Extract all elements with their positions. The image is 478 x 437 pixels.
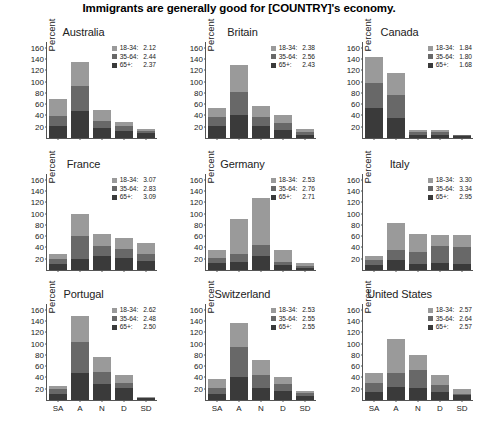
stacked-bar bbox=[387, 73, 405, 138]
bar-slot bbox=[250, 42, 272, 138]
legend-value: 3.34 bbox=[459, 185, 472, 194]
legend-value: 2.64 bbox=[459, 315, 472, 324]
legend-item: 35-64:2.56 bbox=[271, 53, 315, 62]
x-tick-mark bbox=[440, 400, 441, 402]
bar-segment bbox=[431, 246, 449, 264]
y-tick-label: 140 bbox=[190, 54, 203, 63]
legend-item: 65+:2.43 bbox=[271, 61, 315, 70]
y-tick-label: 160 bbox=[347, 175, 360, 184]
x-tick-label: SA bbox=[369, 404, 380, 413]
y-tick-label: 40 bbox=[351, 111, 360, 120]
x-tick-mark bbox=[217, 138, 218, 140]
x-tick-mark bbox=[374, 138, 375, 140]
figure-panel-grid: Immigrants are generally good for [COUNT… bbox=[0, 0, 478, 437]
x-tick-label: N bbox=[99, 404, 105, 413]
bar-segment bbox=[208, 108, 226, 118]
bar-segment bbox=[115, 238, 133, 249]
stacked-bar bbox=[431, 235, 449, 270]
bar-segment bbox=[365, 392, 383, 400]
x-tick-mark bbox=[58, 270, 59, 272]
bar-segment bbox=[93, 121, 111, 128]
x-tick-label: SD bbox=[456, 404, 467, 413]
legend: 18-34:3.0735-64:2.8365+:3.09 bbox=[112, 176, 156, 202]
legend-key: 65+: bbox=[279, 193, 300, 202]
y-tick-label: 20 bbox=[351, 384, 360, 393]
bar-segment bbox=[71, 86, 89, 111]
legend-item: 65+:2.37 bbox=[112, 61, 156, 70]
y-tick-label: 20 bbox=[35, 384, 44, 393]
legend-item: 65+:1.68 bbox=[428, 61, 472, 70]
legend-value: 2.55 bbox=[302, 315, 315, 324]
y-tick-label: 160 bbox=[190, 305, 203, 314]
y-tick-label: 60 bbox=[194, 362, 203, 371]
bar-segment bbox=[71, 236, 89, 260]
panel-title: United States bbox=[320, 288, 478, 300]
y-tick-label: 80 bbox=[194, 220, 203, 229]
bar-segment bbox=[71, 214, 89, 235]
y-tick-label: 160 bbox=[347, 305, 360, 314]
y-tick-label: 20 bbox=[194, 254, 203, 263]
stacked-bar bbox=[274, 377, 292, 400]
x-tick-mark bbox=[396, 400, 397, 402]
y-tick-label: 100 bbox=[347, 209, 360, 218]
legend-key: 65+: bbox=[436, 193, 457, 202]
y-tick-label: 100 bbox=[347, 77, 360, 86]
legend-swatch-icon bbox=[428, 186, 433, 191]
bar-segment bbox=[365, 373, 383, 383]
legend-key: 65+: bbox=[436, 323, 457, 332]
legend-key: 65+: bbox=[120, 323, 141, 332]
legend-item: 18-34:2.53 bbox=[271, 306, 315, 315]
y-tick-label: 160 bbox=[190, 175, 203, 184]
bar-slot bbox=[206, 174, 228, 270]
legend-item: 65+:3.09 bbox=[112, 193, 156, 202]
legend-value: 2.71 bbox=[302, 193, 315, 202]
stacked-bar bbox=[431, 130, 449, 138]
stacked-bar bbox=[453, 235, 471, 270]
y-tick-label: 140 bbox=[190, 316, 203, 325]
stacked-bar bbox=[274, 250, 292, 270]
bar-segment bbox=[453, 235, 471, 247]
legend: 18-34:2.5335-64:2.5565+:2.55 bbox=[271, 306, 315, 332]
bar-segment bbox=[252, 106, 270, 117]
plot-area: Percent2040608010012014016018-34:1.8435-… bbox=[362, 42, 473, 139]
y-tick-label: 60 bbox=[194, 232, 203, 241]
legend-swatch-icon bbox=[271, 63, 276, 68]
legend-key: 65+: bbox=[120, 193, 141, 202]
x-tick-label: D bbox=[121, 404, 127, 413]
x-tick-mark bbox=[283, 400, 284, 402]
bar-segment bbox=[252, 388, 270, 400]
bar-slot bbox=[407, 174, 429, 270]
bar-slot bbox=[47, 42, 69, 138]
bar-segment bbox=[71, 316, 89, 343]
bar-slot bbox=[385, 42, 407, 138]
bar-segment bbox=[115, 388, 133, 400]
y-tick-label: 140 bbox=[31, 316, 44, 325]
bar-slot bbox=[228, 42, 250, 138]
y-tick-label: 100 bbox=[347, 339, 360, 348]
legend-swatch-icon bbox=[428, 308, 433, 313]
legend-swatch-icon bbox=[428, 63, 433, 68]
bar-segment bbox=[93, 110, 111, 121]
legend-key: 35-64: bbox=[436, 315, 457, 324]
stacked-bar bbox=[409, 355, 427, 400]
x-tick-mark bbox=[374, 400, 375, 402]
legend-item: 18-34:2.38 bbox=[271, 44, 315, 53]
y-tick-label: 40 bbox=[194, 243, 203, 252]
bar-segment bbox=[252, 375, 270, 389]
bar-segment bbox=[274, 377, 292, 384]
y-tick-label: 120 bbox=[347, 198, 360, 207]
y-tick-label: 100 bbox=[190, 209, 203, 218]
bar-segment bbox=[409, 355, 427, 370]
bar-slot: N bbox=[250, 304, 272, 400]
bar-slot bbox=[91, 174, 113, 270]
bar-segment bbox=[230, 92, 248, 115]
y-tick-label: 80 bbox=[194, 350, 203, 359]
bar-slot: N bbox=[407, 304, 429, 400]
y-tick-label: 120 bbox=[31, 328, 44, 337]
legend-swatch-icon bbox=[112, 46, 117, 51]
x-tick-label: A bbox=[77, 404, 82, 413]
x-tick-mark bbox=[217, 400, 218, 402]
bar-segment bbox=[274, 250, 292, 262]
bar-slot: A bbox=[385, 304, 407, 400]
stacked-bar bbox=[409, 130, 427, 138]
